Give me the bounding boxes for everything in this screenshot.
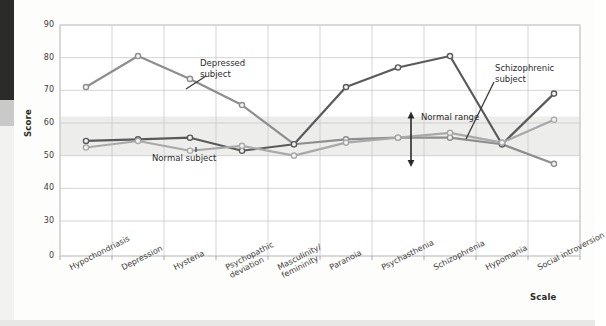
y-tick-0: 0 [30, 251, 54, 260]
y-tick-70: 70 [30, 85, 54, 94]
annotation-depressed-line2: subject [200, 69, 245, 80]
y-tick-80: 80 [30, 53, 54, 62]
y-tick-40: 40 [30, 183, 54, 192]
y-tick-30: 30 [30, 216, 54, 225]
y-tick-60: 60 [30, 118, 54, 127]
annotation-schizophrenic-line1: Schizophrenic [495, 63, 554, 74]
x-axis-title: Scale [530, 292, 557, 302]
annotation-schizophrenic-subject: Schizophrenic subject [495, 63, 554, 84]
annotation-depressed-subject: Depressed subject [200, 58, 245, 79]
y-tick-90: 90 [30, 20, 54, 29]
annotation-normal-subject: Normal subject [152, 153, 216, 164]
y-tick-50: 50 [30, 151, 54, 160]
annotation-depressed-line1: Depressed [200, 58, 245, 69]
annotation-schizophrenic-line2: subject [495, 74, 554, 85]
annotation-normal-range: Normal range [421, 112, 479, 123]
